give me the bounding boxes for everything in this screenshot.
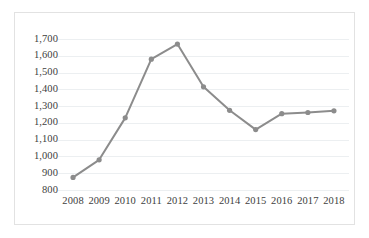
data-point-2015 (253, 127, 258, 132)
data-point-2017 (305, 110, 310, 115)
data-point-2012 (175, 41, 180, 46)
data-point-2013 (201, 84, 206, 89)
data-point-2014 (227, 108, 232, 113)
data-point-2008 (70, 175, 75, 180)
data-point-2009 (97, 157, 102, 162)
data-point-2010 (123, 115, 128, 120)
data-point-2016 (279, 111, 284, 116)
series-line (73, 44, 334, 177)
chart-series-layer (0, 0, 369, 238)
line-chart: 8009001,0001,1001,2001,3001,4001,5001,60… (0, 0, 369, 238)
data-point-2018 (331, 108, 336, 113)
data-point-2011 (149, 57, 154, 62)
